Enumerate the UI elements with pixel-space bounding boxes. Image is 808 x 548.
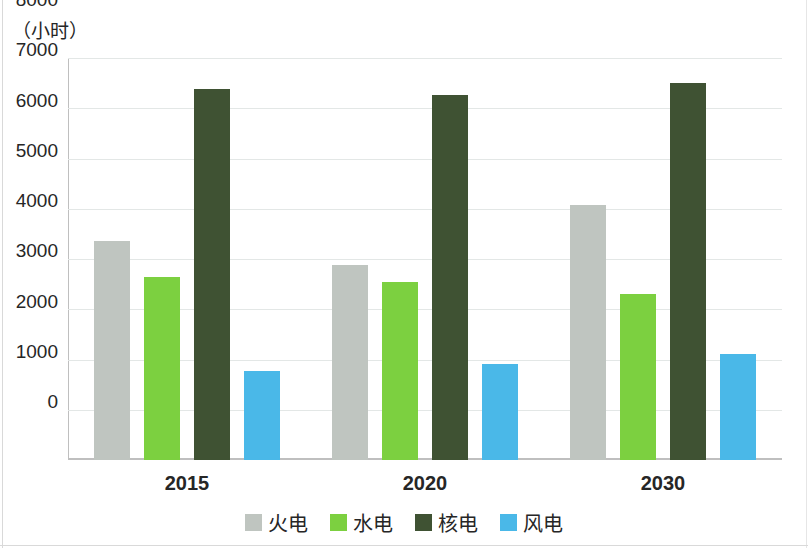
chart-frame-right-border [806, 0, 807, 548]
legend-item-火电: 火电 [245, 508, 308, 537]
y-axis-tick-labels: 010002000300040005000600070008000 [0, 0, 68, 402]
legend-label: 火电 [268, 508, 308, 537]
y-axis-tick-label: 0 [47, 391, 58, 413]
bar-2020-火电 [332, 265, 368, 460]
legend-swatch-icon [330, 514, 347, 531]
legend-swatch-icon [500, 514, 517, 531]
bar-2030-水电 [620, 294, 656, 460]
bar-chart: （小时） 010002000300040005000600070008000 2… [0, 0, 808, 548]
bar-2015-风电 [244, 371, 280, 460]
legend-item-核电: 核电 [415, 508, 478, 537]
y-axis-tick-label: 5000 [16, 140, 58, 162]
legend-item-水电: 水电 [330, 508, 393, 537]
plot-area [68, 58, 782, 460]
chart-frame-bottom-border [0, 545, 808, 546]
bar-2015-火电 [94, 241, 130, 460]
x-axis-tick-label: 2030 [641, 472, 686, 495]
y-axis-tick-label: 4000 [16, 190, 58, 212]
legend-swatch-icon [415, 514, 432, 531]
bar-2030-火电 [570, 205, 606, 460]
bar-2020-水电 [382, 282, 418, 460]
chart-legend: 火电水电核电风电 [0, 508, 808, 537]
x-axis-tick-labels: 201520202030 [68, 472, 782, 500]
y-axis-tick-label: 6000 [16, 90, 58, 112]
y-axis-tick-label: 8000 [16, 0, 58, 11]
gridline [68, 58, 782, 59]
legend-item-风电: 风电 [500, 508, 563, 537]
y-axis-tick-label: 3000 [16, 240, 58, 262]
bar-2015-核电 [194, 89, 230, 460]
y-axis-tick-label: 1000 [16, 341, 58, 363]
bar-2030-风电 [720, 354, 756, 460]
legend-label: 风电 [523, 508, 563, 537]
y-axis-tick-label: 2000 [16, 291, 58, 313]
x-axis-tick-label: 2020 [403, 472, 448, 495]
legend-swatch-icon [245, 514, 262, 531]
bar-2020-风电 [482, 364, 518, 460]
legend-label: 水电 [353, 508, 393, 537]
bar-2015-水电 [144, 277, 180, 460]
x-axis-tick-label: 2015 [165, 472, 210, 495]
legend-label: 核电 [438, 508, 478, 537]
bar-2020-核电 [432, 95, 468, 460]
y-axis-tick-label: 7000 [16, 39, 58, 61]
bar-2030-核电 [670, 83, 706, 460]
